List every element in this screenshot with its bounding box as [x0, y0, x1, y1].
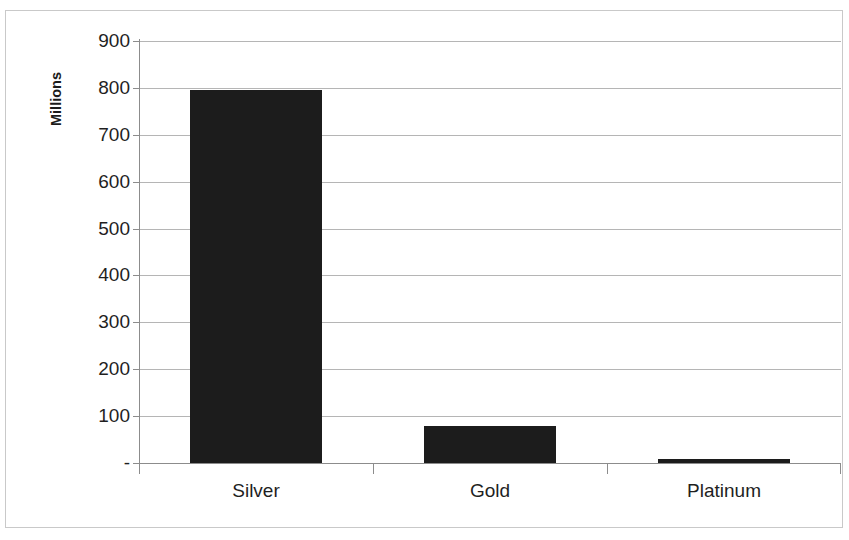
y-tick-label: 500: [58, 219, 130, 238]
y-axis-tick-labels: -100200300400500600700800900: [54, 41, 130, 463]
y-tick-mark: [133, 135, 140, 136]
y-tick-mark: [133, 41, 140, 42]
x-category-label: Gold: [373, 481, 607, 500]
y-tick-label: 100: [58, 406, 130, 425]
y-tick-mark: [133, 322, 140, 323]
bar-silver: [190, 90, 322, 463]
y-tick-mark: [133, 182, 140, 183]
gridline: [139, 41, 841, 42]
y-tick-mark: [133, 416, 140, 417]
y-tick-label: 400: [58, 265, 130, 284]
y-tick-mark: [133, 369, 140, 370]
y-axis-line: [139, 39, 140, 465]
x-tick-mark: [840, 463, 841, 474]
y-tick-label: 300: [58, 312, 130, 331]
y-tick-label: 800: [58, 78, 130, 97]
x-category-label: Silver: [139, 481, 373, 500]
y-tick-label: 900: [58, 31, 130, 50]
plot-area: SilverGoldPlatinum: [139, 41, 841, 463]
y-tick-mark: [133, 275, 140, 276]
x-axis-line: [139, 463, 841, 464]
y-tick-label: 600: [58, 172, 130, 191]
x-tick-mark: [139, 463, 140, 474]
y-tick-label: 700: [58, 125, 130, 144]
y-tick-mark: [133, 88, 140, 89]
gridline: [139, 88, 841, 89]
y-tick-label: -: [58, 453, 130, 472]
bar-gold: [424, 426, 556, 463]
x-tick-mark: [373, 463, 374, 474]
x-tick-mark: [607, 463, 608, 474]
y-tick-label: 200: [58, 359, 130, 378]
x-category-label: Platinum: [607, 481, 841, 500]
chart-frame: Millions -100200300400500600700800900 Si…: [5, 10, 843, 528]
y-tick-mark: [133, 229, 140, 230]
